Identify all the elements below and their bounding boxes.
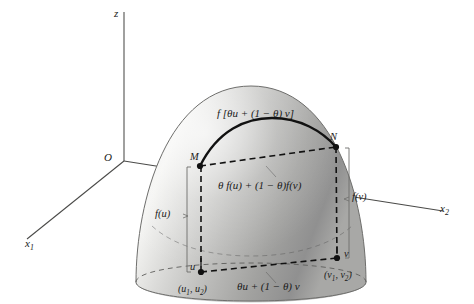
u-coord-mid: , u [190, 283, 200, 294]
label-base-chord-expression: θu + (1 − θ) v [237, 281, 300, 292]
label-u-coordinates: (u1, u2) [178, 284, 207, 297]
point-v-dot [334, 255, 340, 261]
point-N-dot [333, 144, 339, 150]
label-point-M: M [190, 152, 199, 163]
label-chord-expression: θ f(u) + (1 − θ)f(v) [218, 180, 301, 191]
diagram-canvas [0, 0, 474, 304]
convex-function-diagram: z O x1 x2 f [θu + (1 − θ) v] θ f(u) + (1… [0, 0, 474, 304]
v-coord-open: (v [324, 269, 332, 280]
label-f-of-v: f(v) [352, 192, 367, 203]
label-point-N: N [330, 132, 337, 143]
axis-label-x1: x1 [25, 238, 34, 252]
point-u-dot [198, 269, 204, 275]
label-point-u: u [190, 262, 195, 273]
axis-label-origin: O [104, 152, 112, 163]
v-coord-mid: , v [335, 269, 344, 280]
axis-label-x2-sub: 2 [445, 208, 449, 217]
v-coord-close: ) [348, 269, 351, 280]
label-point-v: v [344, 249, 349, 260]
axis-label-x1-sub: 1 [30, 243, 34, 252]
x1-axis [27, 161, 124, 239]
axis-label-x2: x2 [440, 203, 449, 217]
axis-label-z: z [114, 8, 118, 19]
point-M-dot [197, 163, 203, 169]
u-coord-close: ) [204, 283, 207, 294]
label-v-coordinates: (v1, v2) [324, 270, 352, 283]
label-f-of-u: f(u) [155, 209, 170, 220]
label-top-curve-expression: f [θu + (1 − θ) v] [217, 108, 294, 119]
